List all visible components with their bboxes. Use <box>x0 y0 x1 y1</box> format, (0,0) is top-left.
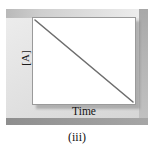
plot-line-chart <box>33 18 135 104</box>
figure-caption: (iii) <box>0 131 154 143</box>
y-axis-label: [A] <box>15 40 35 76</box>
concentration-decay-line <box>35 20 133 102</box>
x-axis-label: Time <box>32 106 136 118</box>
figure-root: [A] Time (iii) <box>0 0 154 154</box>
panel-bottom-bevel <box>6 118 148 125</box>
panel-right-bevel <box>139 9 148 125</box>
plot-area <box>32 17 136 105</box>
